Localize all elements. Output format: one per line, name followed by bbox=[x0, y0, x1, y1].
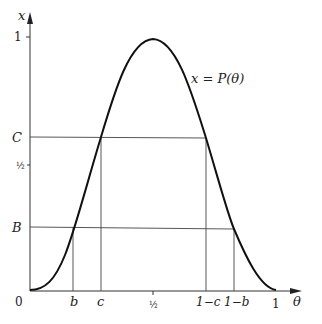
x-tick-label-1-b: 1−b bbox=[224, 295, 249, 309]
x-tick-label-1-c: 1−c bbox=[196, 295, 221, 309]
level-line-C bbox=[30, 137, 206, 138]
x-tick-label-b: b bbox=[70, 294, 78, 309]
y-axis-label: x bbox=[18, 8, 26, 23]
x-tick-label-half: ½ bbox=[149, 300, 158, 310]
y-tick-label-C: C bbox=[12, 130, 22, 145]
y-tick-label-B: B bbox=[11, 220, 22, 235]
y-tick-label-1: 1 bbox=[14, 30, 22, 44]
y-tick-label-half: ½ bbox=[16, 161, 25, 171]
y-axis-arrow-icon bbox=[27, 12, 33, 24]
x-tick-label-c: c bbox=[97, 294, 105, 309]
curve-label: x = P(θ) bbox=[191, 71, 244, 86]
x-tick-label-1: 1 bbox=[272, 297, 280, 311]
diagram-canvas: x 1 C ½ B 0 b c ½ 1−c 1−b 1 θ x = P(θ) bbox=[0, 0, 322, 324]
x-axis-label: θ bbox=[293, 294, 301, 309]
origin-label: 0 bbox=[15, 295, 23, 309]
level-line-B bbox=[30, 227, 234, 229]
